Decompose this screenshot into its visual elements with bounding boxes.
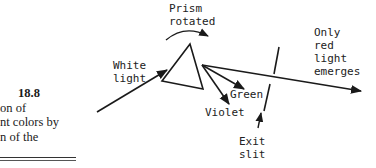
violet-label: Violet <box>205 106 245 119</box>
exit-slit-label-line2: slit <box>239 148 266 161</box>
white-light-label-line1: White <box>113 59 146 72</box>
exit-slit-pointer-icon <box>258 113 261 128</box>
red-light-label-line4: emerges <box>314 65 360 78</box>
prism-diagram: Prism rotated White light Green Violet E… <box>0 0 376 168</box>
rotation-arrow-icon <box>166 31 208 40</box>
prism-label-line1: Prism <box>169 2 202 15</box>
white-light-label-line2: light <box>113 72 146 85</box>
prism-triangle <box>162 44 203 89</box>
violet-ray <box>202 65 229 104</box>
prism-label-line2: rotated <box>169 15 215 28</box>
slit-lower-edge <box>264 84 270 111</box>
red-light-label-line3: light <box>314 52 347 65</box>
exit-slit-label-line1: Exit <box>239 135 266 148</box>
green-label: Green <box>230 88 263 101</box>
slit-upper-edge <box>274 47 279 74</box>
red-light-label-line1: Only <box>314 26 341 39</box>
red-light-label-line2: red <box>314 39 334 52</box>
